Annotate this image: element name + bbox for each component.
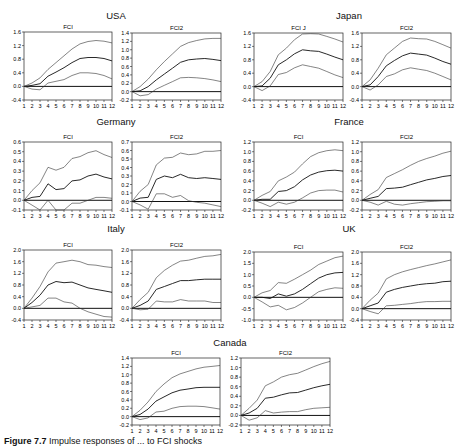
- country-title: Germany: [56, 116, 176, 127]
- x-tick-label: 10: [93, 323, 99, 329]
- y-tick-label: 0.4: [121, 165, 129, 171]
- y-tick-label: 1.0: [121, 47, 129, 53]
- x-tick-label: 10: [202, 323, 208, 329]
- country-title: UK: [289, 223, 409, 234]
- x-tick-label: 11: [332, 213, 338, 219]
- x-tick-label: 8: [187, 213, 190, 219]
- y-tick-label: -0.1: [12, 207, 21, 213]
- x-tick-label: 12: [327, 428, 333, 434]
- x-tick-label: 1: [360, 213, 363, 219]
- panel-title: FCI: [294, 134, 304, 140]
- series-response-line: [132, 279, 221, 308]
- y-tick-label: -0.4: [12, 97, 21, 103]
- x-tick-label: 2: [30, 213, 33, 219]
- panel-title: FCI2: [170, 242, 184, 248]
- x-tick-label: 9: [425, 213, 428, 219]
- y-tick-label: 1.0: [230, 365, 238, 371]
- x-tick-label: 3: [377, 323, 380, 329]
- panel-title: FCI: [294, 244, 304, 250]
- series-response-line: [362, 176, 451, 201]
- x-tick-label: 9: [86, 103, 89, 109]
- x-tick-label: 5: [163, 213, 166, 219]
- x-tick-label: 9: [195, 213, 198, 219]
- x-tick-label: 11: [319, 428, 325, 434]
- x-tick-label: 1: [130, 323, 133, 329]
- x-tick-label: 7: [409, 103, 412, 109]
- y-tick-label: 1.5: [243, 260, 251, 266]
- y-tick-label: 0.2: [121, 80, 129, 86]
- x-tick-label: 7: [409, 323, 412, 329]
- y-tick-label: -0.5: [242, 306, 251, 312]
- y-tick-label: 2.0: [13, 247, 21, 253]
- x-tick-label: 10: [201, 428, 207, 434]
- y-tick-label: 0.0: [121, 89, 129, 95]
- x-tick-label: 5: [54, 103, 57, 109]
- x-tick-label: 5: [285, 103, 288, 109]
- y-tick-label: 0.8: [351, 283, 359, 289]
- x-tick-label: 11: [101, 323, 107, 329]
- y-tick-label: 0.6: [13, 139, 21, 145]
- plot-frame: [254, 252, 343, 320]
- irf-chart: FCI-0.10.00.10.20.30.40.50.6123456789101…: [0, 132, 116, 222]
- y-tick-label: 2.0: [243, 249, 251, 255]
- y-tick-label: 0.4: [351, 294, 359, 300]
- series-response-line: [24, 174, 112, 200]
- y-tick-label: 0.4: [243, 178, 251, 184]
- y-tick-label: 0.4: [351, 70, 359, 76]
- plot-frame: [24, 250, 112, 320]
- series-response-line: [241, 384, 330, 415]
- country-title: France: [289, 116, 409, 127]
- x-tick-label: 4: [155, 323, 158, 329]
- x-tick-label: 2: [138, 428, 141, 434]
- x-tick-label: 6: [280, 428, 283, 434]
- y-tick-label: 0.6: [230, 384, 238, 390]
- y-tick-label: 1.2: [121, 270, 129, 276]
- x-tick-label: 11: [210, 323, 216, 329]
- panel-title: FCI: [63, 134, 73, 140]
- y-tick-label: 0.2: [121, 405, 129, 411]
- irf-chart: FCI2-0.40.00.40.81.21.62.012345678910111…: [108, 240, 225, 332]
- irf-chart: FCI-0.40.00.40.81.21.6123456789101112: [0, 22, 116, 112]
- y-tick-label: 1.6: [243, 30, 251, 36]
- y-tick-label: 0.8: [243, 57, 251, 63]
- x-tick-label: 3: [147, 103, 150, 109]
- y-tick-label: 1.2: [351, 139, 359, 145]
- plot-frame: [132, 33, 221, 100]
- x-tick-label: 4: [46, 323, 49, 329]
- series-response-line: [362, 53, 451, 87]
- x-tick-label: 5: [272, 428, 275, 434]
- x-tick-label: 10: [93, 213, 99, 219]
- x-tick-label: 5: [393, 103, 396, 109]
- x-tick-label: 8: [309, 103, 312, 109]
- x-tick-label: 4: [155, 103, 158, 109]
- y-tick-label: 0.0: [121, 305, 129, 311]
- x-tick-label: 4: [155, 213, 158, 219]
- x-tick-label: 10: [202, 213, 208, 219]
- y-tick-label: 0.0: [121, 414, 129, 420]
- y-tick-label: 0.0: [121, 199, 129, 205]
- y-tick-label: -0.2: [229, 422, 238, 428]
- x-tick-label: 7: [70, 213, 73, 219]
- series-response-line: [132, 387, 220, 416]
- irf-chart: FCI J-0.40.00.40.81.21.6123456789101112: [230, 23, 347, 112]
- y-tick-label: 1.2: [351, 43, 359, 49]
- x-tick-label: 1: [130, 103, 133, 109]
- series-response-line: [362, 281, 451, 309]
- x-tick-label: 12: [218, 213, 224, 219]
- x-tick-label: 11: [440, 213, 446, 219]
- x-tick-label: 7: [179, 323, 182, 329]
- y-tick-label: 0.1: [13, 188, 21, 194]
- y-tick-label: 0.6: [121, 64, 129, 70]
- y-tick-label: -0.4: [350, 97, 359, 103]
- x-tick-label: 2: [261, 213, 264, 219]
- irf-chart: FCI-1.0-0.50.00.51.01.52.012345678910111…: [230, 242, 347, 332]
- x-tick-label: 2: [261, 103, 264, 109]
- x-tick-label: 9: [194, 428, 197, 434]
- x-tick-label: 1: [252, 323, 255, 329]
- x-tick-label: 2: [139, 103, 142, 109]
- y-tick-label: -0.2: [242, 207, 251, 213]
- x-tick-label: 6: [401, 323, 404, 329]
- irf-chart: FCI-0.40.00.40.81.21.62.0123456789101112: [0, 240, 116, 332]
- x-tick-label: 5: [285, 213, 288, 219]
- series-response-line: [254, 272, 343, 298]
